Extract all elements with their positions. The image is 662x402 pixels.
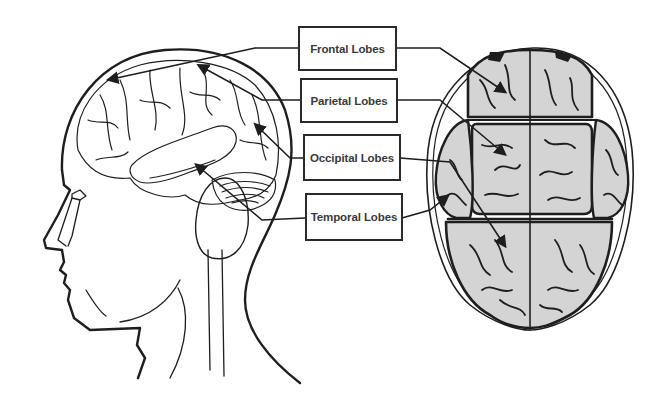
occipital-leader-line bbox=[258, 127, 303, 158]
label-frontal-lobes: Frontal Lobes bbox=[298, 26, 397, 71]
brain-lobes-diagram: Frontal Lobes Parietal Lobes Occipital L… bbox=[0, 0, 662, 402]
ear bbox=[196, 178, 249, 259]
label-parietal-lobes-text: Parietal Lobes bbox=[310, 95, 387, 107]
label-parietal-lobes: Parietal Lobes bbox=[300, 78, 398, 123]
face-profile bbox=[44, 170, 145, 378]
label-temporal-lobes: Temporal Lobes bbox=[305, 193, 403, 241]
brain-top-view bbox=[427, 48, 633, 330]
side-view-leader-lines bbox=[112, 48, 305, 220]
brain-outline bbox=[77, 61, 278, 205]
label-temporal-lobes-text: Temporal Lobes bbox=[311, 211, 398, 223]
label-occipital-lobes: Occipital Lobes bbox=[303, 134, 401, 181]
top-occipital-region bbox=[446, 222, 612, 328]
parietal-leader-line bbox=[202, 67, 300, 100]
brain-side-view bbox=[77, 61, 278, 211]
label-frontal-lobes-text: Frontal Lobes bbox=[310, 43, 385, 55]
label-occipital-lobes-text: Occipital Lobes bbox=[310, 152, 394, 164]
